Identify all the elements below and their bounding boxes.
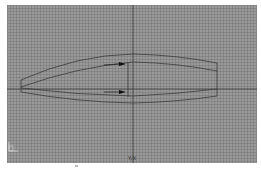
- lower-arrow-icon: [104, 90, 126, 94]
- axis-label: Y/X: [128, 155, 136, 161]
- outer-upper-curve: [21, 54, 217, 80]
- scroll-indicator: [75, 165, 78, 167]
- drawing-viewport[interactable]: Y/X: [7, 5, 257, 163]
- ucs-icon: [9, 142, 18, 151]
- drawing-canvas[interactable]: [7, 5, 257, 163]
